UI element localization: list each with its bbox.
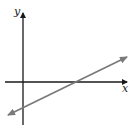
y-axis-label: y: [13, 5, 21, 18]
coordinate-plane: y x: [0, 0, 136, 135]
graph-line: [8, 57, 127, 115]
x-axis-label: x: [122, 82, 129, 95]
